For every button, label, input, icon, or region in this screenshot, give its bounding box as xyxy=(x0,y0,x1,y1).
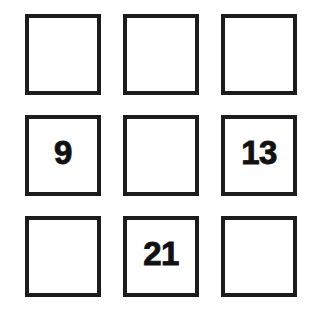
grid-cell-r3c1[interactable] xyxy=(25,216,101,297)
cell-value-r2c1: 9 xyxy=(54,136,72,169)
grid-cell-r3c3[interactable] xyxy=(221,216,297,297)
grid-cell-r1c3[interactable] xyxy=(221,14,297,95)
grid-cell-r1c2[interactable] xyxy=(123,14,199,95)
cell-value-r3c2: 21 xyxy=(143,237,179,270)
grid-cell-r2c3[interactable]: 13 xyxy=(221,115,297,196)
puzzle-grid: 9 13 21 xyxy=(25,14,297,296)
grid-cell-r2c2[interactable] xyxy=(123,115,199,196)
grid-cell-r3c2[interactable]: 21 xyxy=(123,216,199,297)
cell-value-r2c3: 13 xyxy=(241,136,277,169)
grid-cell-r1c1[interactable] xyxy=(25,14,101,95)
grid-cell-r2c1[interactable]: 9 xyxy=(25,115,101,196)
